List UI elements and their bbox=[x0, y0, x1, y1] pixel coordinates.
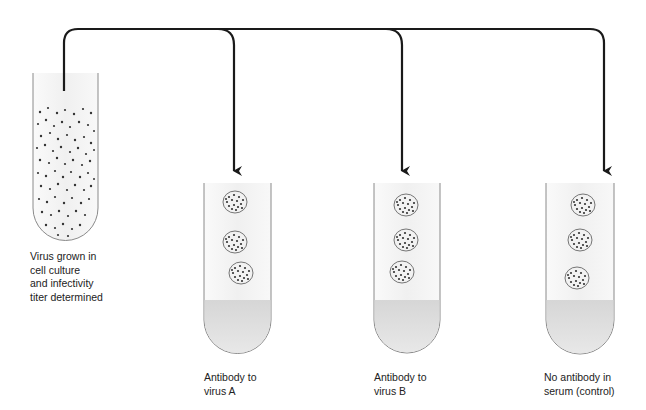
tube-b-label: Antibody to virus B bbox=[374, 371, 427, 398]
tube-c-label: No antibody in serum (control) bbox=[544, 371, 615, 398]
virus-clump bbox=[223, 231, 247, 253]
virus-clump bbox=[390, 261, 414, 283]
virus-clump bbox=[565, 267, 589, 289]
virus-clump bbox=[568, 229, 592, 251]
virus-clump bbox=[229, 262, 253, 284]
tube-antibody-b bbox=[374, 183, 440, 353]
distribution-arrows bbox=[64, 29, 604, 171]
tube-control bbox=[546, 183, 614, 354]
virus-neutralization-diagram bbox=[0, 0, 646, 410]
tube-a-label: Antibody to virus A bbox=[204, 371, 257, 398]
source-tube-label: Virus grown in cell culture and infectiv… bbox=[30, 250, 103, 304]
source-tube bbox=[33, 73, 98, 241]
virus-clump bbox=[394, 229, 418, 251]
virus-clump bbox=[223, 191, 247, 213]
virus-clump bbox=[571, 194, 595, 216]
virus-clump bbox=[394, 194, 418, 216]
tube-antibody-a bbox=[204, 183, 271, 354]
